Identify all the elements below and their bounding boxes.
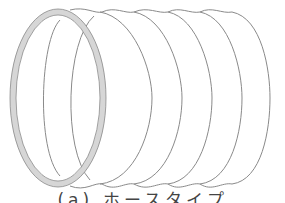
hose-rib-5 <box>200 12 242 184</box>
hose-rib-6 <box>232 12 270 184</box>
hose-illustration <box>0 0 285 203</box>
hose-rib-3 <box>134 12 182 184</box>
hose-inner-edge <box>43 20 60 176</box>
hose-bottom-edge <box>70 184 232 188</box>
hose-rib-4 <box>168 12 212 184</box>
hose-top-edge <box>70 9 232 12</box>
figure-caption: (a) ホースタイプ <box>0 190 285 203</box>
hose-front-ring <box>13 12 103 184</box>
hose-rib-2 <box>100 12 152 184</box>
